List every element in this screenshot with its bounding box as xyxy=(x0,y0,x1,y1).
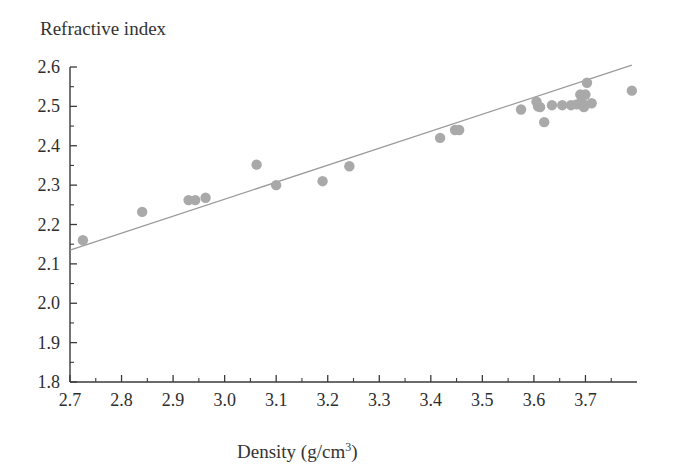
data-point xyxy=(627,85,637,95)
y-tick-label: 2.6 xyxy=(38,57,61,77)
y-tick-label: 2.1 xyxy=(38,254,61,274)
y-axis-title: Refractive index xyxy=(40,18,167,39)
data-point xyxy=(190,195,200,205)
x-tick-label: 2.8 xyxy=(110,390,133,410)
x-axis-title-main: Density (g/cm xyxy=(237,441,345,463)
y-tick-label: 2.0 xyxy=(38,293,61,313)
data-point xyxy=(200,193,210,203)
data-point xyxy=(516,104,526,114)
data-point xyxy=(547,100,557,110)
x-axis-title-close: ) xyxy=(351,441,357,463)
y-tick-label: 1.8 xyxy=(38,372,61,392)
y-tick-label: 1.9 xyxy=(38,333,61,353)
y-axis-tick-labels: 1.81.92.02.12.22.32.42.52.6 xyxy=(38,57,61,392)
x-tick-label: 3.7 xyxy=(574,390,597,410)
data-point xyxy=(435,133,445,143)
x-axis-title: Density (g/cm3) xyxy=(237,440,358,463)
x-tick-label: 2.9 xyxy=(162,390,185,410)
data-point xyxy=(580,89,590,99)
x-tick-label: 3.2 xyxy=(316,390,339,410)
x-tick-label: 3.0 xyxy=(213,390,236,410)
x-tick-label: 3.4 xyxy=(420,390,443,410)
x-tick-label: 3.6 xyxy=(523,390,546,410)
data-point xyxy=(344,161,354,171)
data-point xyxy=(78,235,88,245)
y-tick-label: 2.4 xyxy=(38,136,61,156)
x-tick-label: 3.1 xyxy=(265,390,288,410)
data-point xyxy=(271,180,281,190)
data-point xyxy=(582,78,592,88)
chart-figure: Refractive index 1.81.92.02.12.22.32.42.… xyxy=(0,0,673,475)
data-point xyxy=(137,207,147,217)
y-tick-label: 2.5 xyxy=(38,96,61,116)
data-point xyxy=(317,176,327,186)
x-tick-label: 3.3 xyxy=(368,390,391,410)
data-point xyxy=(586,98,596,108)
y-tick-label: 2.3 xyxy=(38,175,61,195)
data-point xyxy=(539,117,549,127)
x-tick-label: 2.7 xyxy=(59,390,82,410)
data-point xyxy=(535,102,545,112)
y-tick-label: 2.2 xyxy=(38,215,61,235)
scatter-plot-canvas: Refractive index 1.81.92.02.12.22.32.42.… xyxy=(0,0,673,475)
x-tick-label: 3.5 xyxy=(471,390,494,410)
data-point xyxy=(454,125,464,135)
data-point xyxy=(251,159,261,169)
